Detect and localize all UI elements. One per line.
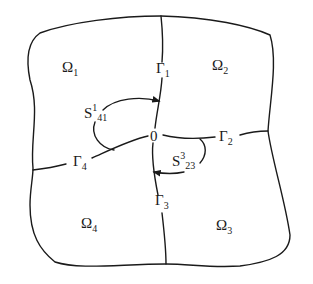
label-gamma-2: Γ2 xyxy=(219,128,233,147)
interface-gamma-2-right xyxy=(240,131,268,135)
region-omega-1: Ω1 xyxy=(62,59,78,78)
label-s-1-41: S141 xyxy=(84,102,107,123)
interface-gamma-4 xyxy=(92,136,148,158)
interface-gamma-4-left xyxy=(33,164,66,170)
diagram-canvas: 0 Ω1 Ω2 Ω3 Ω4 Γ1 Γ2 Γ3 Γ4 S141 S323 xyxy=(0,0,313,284)
interface-gamma-1-lower xyxy=(155,78,162,128)
label-gamma-4: Γ4 xyxy=(73,153,87,172)
region-omega-3: Ω3 xyxy=(216,217,232,236)
interface-gamma-1 xyxy=(161,16,163,62)
interface-gamma-3 xyxy=(152,143,158,195)
label-gamma-3: Γ3 xyxy=(155,192,169,211)
label-s-3-23: S323 xyxy=(172,150,195,171)
center-label: 0 xyxy=(150,128,158,144)
region-omega-2: Ω2 xyxy=(212,57,228,76)
interface-gamma-2 xyxy=(163,135,215,138)
interface-gamma-3-lower xyxy=(162,213,166,264)
label-gamma-1: Γ1 xyxy=(156,60,170,79)
outer-boundary xyxy=(28,16,290,267)
region-omega-4: Ω4 xyxy=(81,215,97,234)
